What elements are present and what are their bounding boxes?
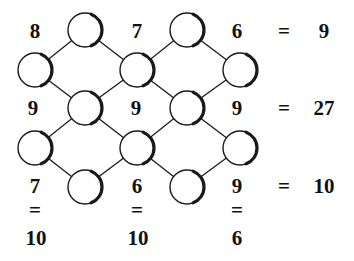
empty-circle-c1[interactable]: [68, 13, 102, 47]
cell-number-r1c3: 6: [232, 21, 243, 42]
number-puzzle: 8 7 6 = 9 9 9 9 = 27 7 6 9 = 10 = = = 10…: [0, 0, 354, 261]
empty-circle-c8[interactable]: [18, 131, 52, 165]
column-result-2: 10: [128, 228, 149, 249]
cell-number-r3c1: 7: [30, 176, 41, 197]
cell-number-r2c2: 9: [131, 98, 142, 119]
row-result-2: 27: [314, 98, 335, 119]
empty-circle-c2[interactable]: [170, 13, 204, 47]
row-result-3: 10: [314, 176, 335, 197]
column-equals-3: =: [231, 200, 243, 221]
empty-circle-c6[interactable]: [68, 91, 102, 125]
cell-number-r1c1: 8: [30, 21, 41, 42]
empty-circle-c7[interactable]: [170, 91, 204, 125]
cell-number-r1c2: 7: [132, 21, 143, 42]
row-equals-1: =: [278, 21, 290, 42]
empty-circle-c11[interactable]: [68, 170, 102, 204]
cell-number-r3c3: 9: [232, 176, 243, 197]
empty-circle-c12[interactable]: [170, 170, 204, 204]
empty-circle-c9[interactable]: [120, 131, 154, 165]
empty-circle-c4[interactable]: [120, 53, 154, 87]
column-equals-2: =: [131, 200, 143, 221]
row-equals-2: =: [278, 98, 290, 119]
cell-number-r2c1: 9: [28, 98, 39, 119]
column-result-1: 10: [26, 228, 47, 249]
empty-circle-c5[interactable]: [223, 53, 257, 87]
empty-circle-c10[interactable]: [223, 131, 257, 165]
column-result-3: 6: [232, 228, 243, 249]
circle-network: [0, 0, 354, 261]
cell-number-r2c3: 9: [232, 98, 243, 119]
column-equals-1: =: [29, 200, 41, 221]
row-result-1: 9: [319, 21, 330, 42]
row-equals-3: =: [278, 176, 290, 197]
cell-number-r3c2: 6: [132, 176, 143, 197]
empty-circle-c3[interactable]: [18, 53, 52, 87]
